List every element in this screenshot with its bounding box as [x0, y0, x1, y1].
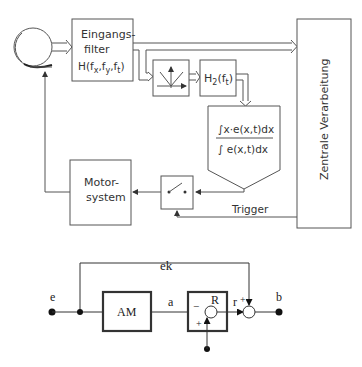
detector-to-h2-arrow — [189, 71, 200, 83]
central-processing-label: Zentrale Verarbeitung — [318, 59, 331, 180]
motor-label-2: system — [86, 191, 126, 204]
diagram-canvas: Eingangs- filter H(fx,fy,ft) — [0, 0, 362, 367]
minus-sign: − — [193, 300, 199, 312]
r-block-label: R — [211, 293, 219, 307]
trigger-line: Trigger — [177, 203, 297, 217]
centroid-computation-block: ∫x·e(x,t)dx ∫ e(x,t)dx — [208, 106, 280, 189]
h2-to-integral-arrow — [236, 74, 251, 106]
motor-label-1: Motor- — [84, 176, 119, 189]
input-filter-label-1: Eingangs- — [81, 28, 135, 41]
integral-to-switch-arrow — [196, 189, 244, 192]
e-label: e — [50, 290, 55, 304]
filter-to-detector-arrow — [133, 50, 153, 81]
input-filter-label-2: filter — [84, 43, 110, 56]
h2-filter-function: H2(ft) — [204, 72, 233, 87]
r-label: r — [233, 295, 237, 309]
block-diagram-bottom: ek e AM a R − + r + b — [49, 258, 283, 352]
input-filter-block: Eingangs- filter H(fx,fy,ft) — [72, 19, 135, 81]
integral-numerator: ∫x·e(x,t)dx — [218, 123, 274, 135]
junction-node — [77, 309, 83, 315]
plus-sign-r: + — [196, 318, 202, 329]
eye-to-filter-arrow — [52, 40, 72, 54]
plus-sign-out: + — [240, 294, 246, 305]
central-processing-block: Zentrale Verarbeitung — [297, 19, 351, 228]
h2-filter-block: H2(ft) — [200, 60, 236, 96]
b-label: b — [276, 290, 282, 304]
output-node-b — [276, 309, 283, 316]
am-label: AM — [117, 305, 137, 319]
summing-junction-r — [205, 306, 217, 318]
eye-icon — [14, 28, 52, 67]
filter-to-central-arrow — [133, 40, 297, 53]
trigger-label: Trigger — [231, 203, 269, 215]
motion-detector-block — [153, 60, 189, 96]
a-label: a — [168, 295, 174, 309]
motor-system-block: Motor- system — [70, 160, 131, 225]
summing-junction-out — [243, 306, 255, 318]
switch-block — [161, 176, 193, 209]
ek-label: ek — [160, 258, 173, 273]
motor-to-eye-arrow — [45, 72, 70, 192]
integral-denominator: ∫ e(x,t)dx — [218, 143, 268, 155]
